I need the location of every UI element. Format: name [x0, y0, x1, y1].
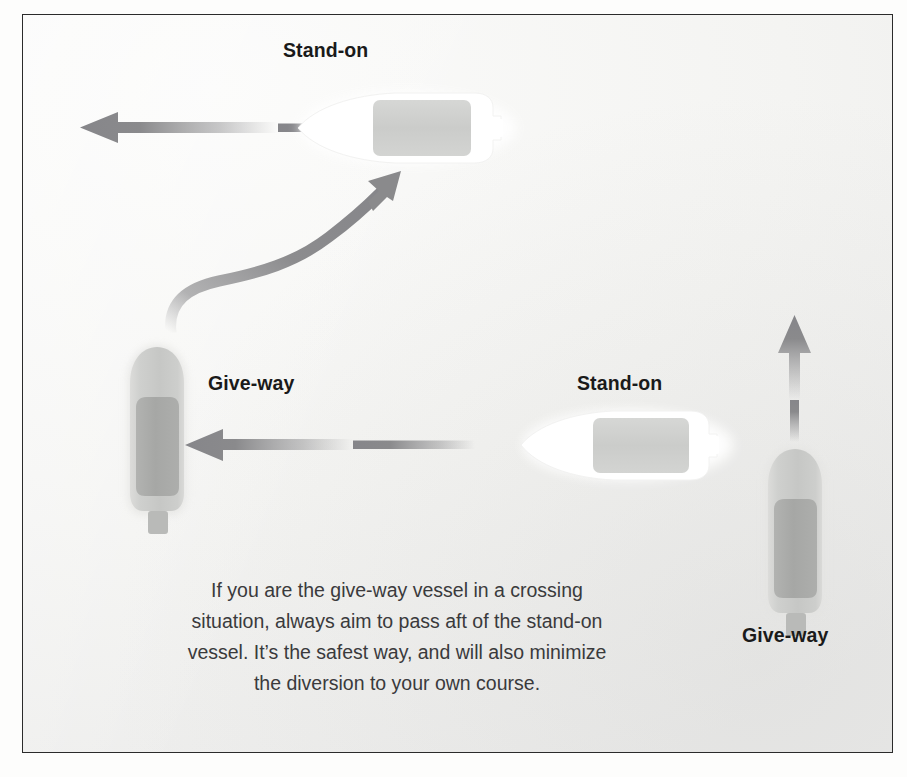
label-left-giveway: Give-way	[208, 372, 294, 395]
caption-line-3: vessel. It’s the safest way, and will al…	[141, 637, 653, 668]
caption-line-4: the diversion to your own course.	[141, 668, 653, 699]
diagram-page: Stand-on Give-way Stand-on Give-way If y…	[0, 0, 907, 777]
caption-line-2: situation, always aim to pass aft of the…	[141, 606, 653, 637]
right-giveway-vessel	[766, 447, 824, 636]
top-standon-vessel	[298, 92, 516, 164]
label-right-giveway: Give-way	[742, 624, 828, 647]
caption-line-1: If you are the give-way vessel in a cros…	[141, 575, 653, 606]
curved-diversion-arrow	[171, 171, 401, 333]
illustration-panel: Stand-on Give-way Stand-on Give-way If y…	[22, 14, 893, 753]
left-giveway-vessel	[128, 345, 186, 534]
label-top-standon: Stand-on	[283, 39, 368, 62]
label-middle-standon: Stand-on	[577, 372, 662, 395]
middle-standon-vessel	[521, 410, 733, 480]
right-course-arrow	[778, 315, 811, 442]
caption-block: If you are the give-way vessel in a cros…	[141, 575, 653, 699]
middle-course-arrow	[185, 429, 475, 461]
